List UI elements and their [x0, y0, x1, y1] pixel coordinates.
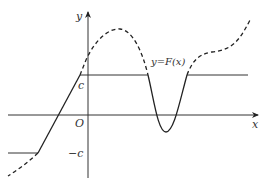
function-graph-figure: y x O c −c y=F(x) [0, 0, 266, 189]
lower-level-label: −c [68, 147, 83, 160]
dashed-curve-right [187, 20, 250, 75]
solid-curve-dip [148, 75, 187, 132]
upper-level-label: c [78, 79, 84, 92]
curve-label: y=F(x) [150, 56, 186, 67]
dashed-curve-lower-left [8, 153, 38, 176]
x-axis-label: x [252, 118, 259, 131]
dashed-curve-hump [80, 29, 148, 75]
origin-label: O [75, 117, 84, 130]
graph-canvas: y x O c −c y=F(x) [0, 0, 266, 189]
rising-solid-segment [38, 75, 80, 153]
y-axis-label: y [75, 10, 83, 23]
